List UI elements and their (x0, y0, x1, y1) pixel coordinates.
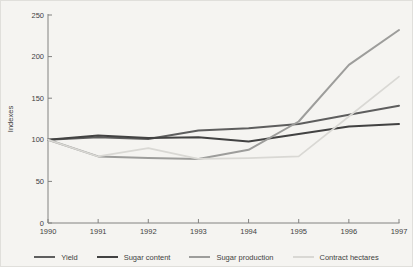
x-tick-label: 1997 (391, 227, 408, 236)
y-tick-label: 50 (36, 177, 44, 186)
legend-label-sugar-production: Sugar production (216, 253, 273, 262)
chart-figure: 0501001502002501990199119921993199419951… (0, 0, 413, 267)
line-chart: 0501001502002501990199119921993199419951… (1, 1, 413, 267)
legend-swatch-contract-hectares (293, 256, 314, 258)
legend-label-yield: Yield (61, 253, 77, 262)
x-tick-label: 1995 (290, 227, 307, 236)
legend-label-sugar-content: Sugar content (124, 253, 171, 262)
series-line-yield (48, 106, 399, 140)
chart-legend: YieldSugar contentSugar productionContra… (1, 249, 412, 265)
y-tick-label: 150 (31, 94, 44, 103)
series-line-contract-hectares (48, 77, 399, 159)
series-line-sugar-content (48, 124, 399, 142)
legend-item-contract-hectares: Contract hectares (293, 253, 379, 262)
x-tick-label: 1992 (140, 227, 157, 236)
y-tick-label: 200 (31, 52, 44, 61)
legend-item-sugar-production: Sugar production (189, 253, 273, 262)
legend-label-contract-hectares: Contract hectares (320, 253, 379, 262)
legend-swatch-sugar-content (97, 256, 118, 258)
legend-swatch-yield (34, 256, 55, 258)
x-tick-label: 1993 (190, 227, 207, 236)
legend-item-sugar-content: Sugar content (97, 253, 171, 262)
legend-swatch-sugar-production (189, 256, 210, 258)
legend-item-yield: Yield (34, 253, 77, 262)
y-axis-title: Indexes (6, 106, 15, 133)
y-tick-label: 100 (31, 135, 44, 144)
x-tick-label: 1994 (240, 227, 257, 236)
x-tick-label: 1996 (341, 227, 358, 236)
x-tick-label: 1991 (90, 227, 107, 236)
y-tick-label: 250 (31, 11, 44, 20)
x-tick-label: 1990 (40, 227, 57, 236)
